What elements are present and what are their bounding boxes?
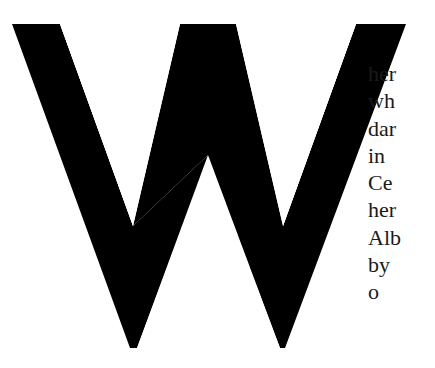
text-line: dar	[368, 115, 435, 142]
body-text-column: her wh dar in Ce her Alb by o	[368, 60, 435, 306]
text-line: o	[368, 278, 435, 305]
text-line: her	[368, 60, 435, 87]
text-line: her	[368, 196, 435, 223]
text-line: wh	[368, 87, 435, 114]
text-line: Alb	[368, 224, 435, 251]
text-line: by	[368, 251, 435, 278]
text-line: in	[368, 142, 435, 169]
text-line: Ce	[368, 169, 435, 196]
